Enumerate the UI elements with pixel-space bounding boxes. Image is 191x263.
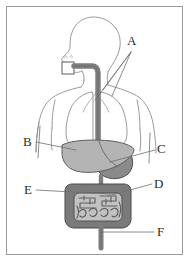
lung-left xyxy=(66,92,93,145)
label-c: C xyxy=(157,142,166,155)
label-f: F xyxy=(157,225,164,238)
leader-tick-b xyxy=(38,126,40,158)
lung-right xyxy=(100,92,127,145)
label-b: B xyxy=(23,135,32,148)
label-d: D xyxy=(154,177,163,190)
label-e: E xyxy=(24,183,32,196)
large-intestine xyxy=(65,184,131,228)
diagram-page: A B C D E F xyxy=(0,0,191,263)
label-a: A xyxy=(127,34,136,47)
leader-tick-c xyxy=(149,133,150,163)
